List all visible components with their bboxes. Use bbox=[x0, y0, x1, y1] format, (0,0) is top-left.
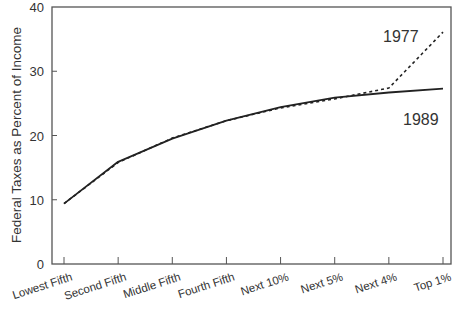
y-tick-label: 10 bbox=[30, 193, 44, 208]
series-lines bbox=[64, 32, 443, 204]
series-line-1977 bbox=[64, 32, 443, 204]
y-tick-label: 0 bbox=[37, 257, 44, 272]
y-tick-labels: 010203040 bbox=[30, 0, 44, 272]
annotation-1989: 1989 bbox=[403, 111, 439, 128]
x-tick-label: Second Fifth bbox=[63, 270, 128, 301]
x-tick-label: Next 10% bbox=[239, 270, 290, 297]
x-tick-label: Next 5% bbox=[299, 270, 344, 295]
x-tick-label: Fourth Fifth bbox=[176, 270, 236, 300]
x-tick-label: Top 1% bbox=[412, 270, 452, 293]
x-tick-label: Middle Fifth bbox=[122, 270, 182, 300]
axes bbox=[52, 7, 451, 264]
annotation-1977: 1977 bbox=[383, 28, 419, 45]
series-annotations: 19771989 bbox=[383, 28, 439, 128]
y-tick-label: 40 bbox=[30, 0, 44, 15]
chart-container: 010203040 Lowest FifthSecond FifthMiddle… bbox=[0, 0, 468, 317]
y-axis-title: Federal Taxes as Percent of Income bbox=[9, 27, 24, 243]
line-chart: 010203040 Lowest FifthSecond FifthMiddle… bbox=[0, 0, 468, 317]
x-tick-label: Next 4% bbox=[353, 270, 398, 295]
y-tick-label: 20 bbox=[30, 129, 44, 144]
y-tick-label: 30 bbox=[30, 64, 44, 79]
plot-frame bbox=[52, 7, 451, 264]
series-line-1989 bbox=[64, 89, 443, 204]
x-tick-labels: Lowest FifthSecond FifthMiddle FifthFour… bbox=[11, 270, 453, 301]
